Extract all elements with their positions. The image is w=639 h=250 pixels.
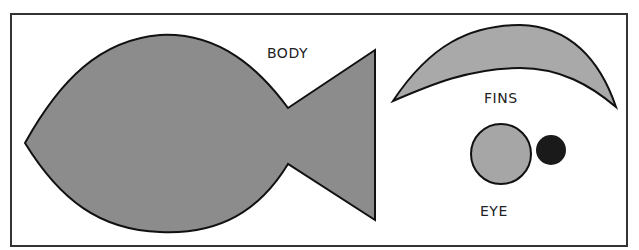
eye-shape xyxy=(471,124,531,184)
eye-label: EYE xyxy=(480,203,508,219)
body-label: BODY xyxy=(267,45,308,61)
fins-label: FINS xyxy=(484,90,518,106)
pupil-shape xyxy=(536,135,566,165)
fish-parts-diagram: BODY FINS EYE xyxy=(0,0,639,250)
